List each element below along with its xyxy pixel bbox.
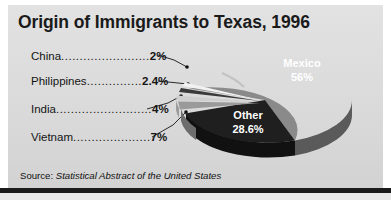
pie-chart: Mexico 56% Other 28.6% xyxy=(150,30,375,180)
pie-label-other-pct: 28.6% xyxy=(232,123,263,135)
pie-label-mexico-pct: 56% xyxy=(291,71,313,83)
pie-label-other-name: Other xyxy=(233,109,263,121)
pie-label-mexico-name: Mexico xyxy=(283,57,321,69)
pie-side-mexico xyxy=(295,100,352,156)
source-title: Statistical Abstract of the United State… xyxy=(56,170,221,181)
source-label: Source: xyxy=(20,170,53,181)
bottom-shade xyxy=(0,193,391,200)
pie-highlight xyxy=(222,73,244,87)
source-note: Source: Statistical Abstract of the Unit… xyxy=(20,170,221,181)
chart-figure: Origin of Immigrants to Texas, 1996 Chin… xyxy=(0,0,391,205)
